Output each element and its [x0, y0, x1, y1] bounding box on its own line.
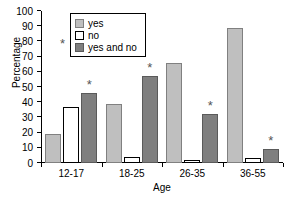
y-axis-tick-label: 40 — [22, 96, 33, 107]
x-axis-tick — [102, 163, 103, 167]
legend-swatch-no — [75, 31, 84, 40]
x-axis-category-label: 18-25 — [119, 168, 145, 179]
significance-star-icon: * — [147, 61, 152, 74]
y-axis-tick-label: 10 — [22, 142, 33, 153]
bar — [124, 157, 140, 163]
bar — [81, 93, 97, 163]
legend-swatch-yes-and-no — [75, 43, 84, 52]
x-axis-category-label: 26-35 — [179, 168, 205, 179]
y-axis-tick-label: 80 — [22, 35, 33, 46]
x-axis-category-label: 12-17 — [58, 168, 84, 179]
legend-item: no — [75, 29, 137, 41]
significance-star-icon: * — [268, 134, 273, 147]
legend: yes no yes and no — [70, 13, 146, 57]
y-axis-tick-label: 70 — [22, 51, 33, 62]
y-axis-tick-label: 0 — [27, 157, 33, 168]
bar-chart: Percentage 0102030405060708090100 **** 1… — [0, 0, 290, 201]
bar — [227, 28, 243, 163]
y-axis-tick-label: 30 — [22, 111, 33, 122]
legend-item: yes — [75, 17, 137, 29]
legend-star-icon: * — [60, 37, 65, 50]
x-axis-tick — [41, 163, 42, 167]
y-axis-title: Percentage — [11, 18, 22, 108]
y-axis-tick-label: 50 — [22, 81, 33, 92]
significance-star-icon: * — [87, 78, 92, 91]
legend-item: yes and no — [75, 41, 137, 53]
bar — [166, 63, 182, 163]
x-axis-tick — [223, 163, 224, 167]
legend-label-no: no — [88, 30, 99, 41]
y-axis-tick-label: 20 — [22, 127, 33, 138]
y-axis-tick-label: 90 — [22, 20, 33, 31]
x-axis-title: Age — [41, 182, 283, 193]
significance-star-icon: * — [208, 99, 213, 112]
bar — [202, 114, 218, 163]
legend-swatch-yes — [75, 19, 84, 28]
bar — [142, 76, 158, 163]
bar — [184, 160, 200, 163]
y-axis-tick-label: 100 — [16, 5, 33, 16]
legend-label-yes-and-no: yes and no — [88, 42, 137, 53]
bar — [263, 149, 279, 163]
bar — [245, 158, 261, 163]
x-axis-tick — [162, 163, 163, 167]
y-axis-tick-label: 60 — [22, 66, 33, 77]
legend-label-yes: yes — [88, 18, 104, 29]
x-axis-category-label: 36-55 — [240, 168, 266, 179]
x-axis-tick — [283, 163, 284, 167]
bar — [63, 107, 79, 163]
bar — [45, 134, 61, 163]
bar — [106, 104, 122, 163]
